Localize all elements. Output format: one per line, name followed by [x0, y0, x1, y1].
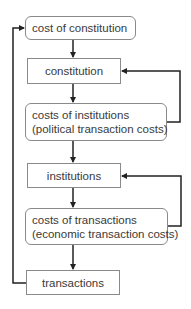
node-transactions: transactions	[26, 270, 120, 295]
node-costs-of-institutions: costs of institutions (political transac…	[25, 103, 167, 141]
node-costs-of-transactions: costs of transactions (economic transact…	[25, 208, 168, 245]
feedback-arrow-transactions-to-cost-of-constitution	[13, 28, 26, 283]
node-institutions: institutions	[27, 163, 121, 188]
node-cost-of-constitution: cost of constitution	[25, 16, 136, 40]
node-label: cost of constitution	[32, 21, 127, 35]
node-label-line-2: (political transaction costs)	[32, 122, 168, 136]
node-label-line-2: (economic transaction costs)	[32, 227, 178, 241]
node-constitution: constitution	[27, 58, 121, 84]
node-label-line-1: costs of institutions	[32, 108, 129, 122]
node-label: transactions	[42, 276, 104, 290]
node-label-line-1: costs of transactions	[32, 213, 137, 227]
node-label: institutions	[47, 169, 101, 183]
node-label: constitution	[45, 64, 103, 78]
connector-layer	[0, 0, 191, 309]
